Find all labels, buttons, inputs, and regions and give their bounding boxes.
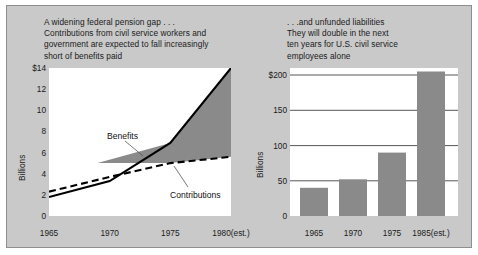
y-tick-label: 100: [273, 141, 287, 151]
y-tick-label: 8: [41, 126, 46, 136]
bar-1970: [339, 179, 367, 216]
y-tick-label: 0: [41, 211, 46, 221]
right-chart-x-tick-labels: 1965 1970 1975 1985(est.): [290, 228, 458, 240]
x-tick-label: 1975: [161, 228, 179, 238]
left-chart-caption: A widening federal pension gap . . . Con…: [44, 17, 244, 62]
left-chart-panel: A widening federal pension gap . . . Con…: [7, 6, 245, 247]
contributions-leader-line: [174, 166, 188, 187]
gap-shaded-region: [98, 68, 232, 163]
y-tick-label: 2: [41, 190, 46, 200]
x-tick-label: 1965: [40, 228, 58, 238]
right-chart-y-tick-labels: $200 150 100 50 0: [259, 68, 287, 216]
bar-1985-est: [417, 72, 445, 217]
y-tick-label: 0: [282, 211, 287, 221]
y-tick-label: 50: [278, 176, 287, 186]
left-chart-y-tick-labels: $14 12 10 8 6 4 2 0: [21, 68, 46, 216]
y-tick-label: $14: [32, 63, 46, 73]
right-chart-caption: . . .and unfunded liabilities They will …: [287, 17, 472, 62]
y-tick-label: 4: [41, 169, 46, 179]
x-tick-label: 1970: [344, 228, 362, 238]
bar-1965: [300, 188, 328, 216]
y-tick-label: $200: [269, 70, 287, 80]
y-tick-label: 10: [37, 105, 46, 115]
y-tick-label: 150: [273, 105, 287, 115]
benefits-series-label: Benefits: [107, 131, 138, 141]
x-tick-label: 1965: [305, 228, 323, 238]
bar-1975: [378, 153, 406, 216]
x-tick-label: 1975: [383, 228, 401, 238]
y-tick-label: 6: [41, 148, 46, 158]
left-chart-x-tick-labels: 1965 1970 1975 1980(est.): [49, 228, 231, 240]
contributions-series-label: Contributions: [170, 190, 221, 200]
figure-container: A widening federal pension gap . . . Con…: [6, 5, 472, 248]
x-tick-label: 1985(est.): [412, 228, 449, 238]
y-tick-label: 12: [37, 84, 46, 94]
right-chart-svg: [290, 68, 458, 216]
x-tick-label: 1970: [100, 228, 118, 238]
right-chart-plot-area: [290, 68, 458, 216]
